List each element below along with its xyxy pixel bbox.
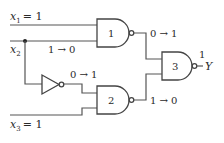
nand-gate-2	[97, 86, 134, 114]
x3-label: x3= 1	[10, 118, 42, 133]
x2-label: x2	[10, 43, 21, 58]
gate3-output-value: 1	[199, 49, 205, 60]
x3-wire	[10, 108, 97, 115]
gate2-transition-label: 1 → 0	[150, 95, 177, 106]
x2-branch-wire	[25, 41, 42, 84]
nand-gate-1	[97, 19, 134, 47]
output-y-label: Y	[205, 60, 214, 73]
gate1-number: 1	[108, 28, 114, 39]
nand-gate-3	[162, 52, 197, 80]
x1-label: x1= 1	[10, 10, 42, 25]
inverter-gate	[42, 75, 64, 94]
gate1-transition-label: 0 → 1	[150, 28, 177, 39]
logic-circuit-diagram: x1= 1 x2 x3= 1 1 → 0 0 → 1 0 → 1 1 → 0 1…	[0, 0, 224, 143]
gate2-number: 2	[108, 95, 114, 106]
inverter-transition-label: 0 → 1	[70, 69, 97, 80]
gate3-number: 3	[172, 61, 178, 72]
inverter-out-wire	[64, 84, 97, 93]
x2-transition-label: 1 → 0	[48, 44, 75, 55]
